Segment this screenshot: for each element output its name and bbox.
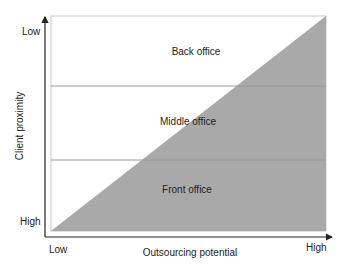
y-axis-top-label: Low bbox=[22, 26, 40, 38]
diagram-canvas bbox=[0, 0, 346, 266]
region-middle-office-label: Middle office bbox=[160, 116, 216, 128]
x-axis-high-label: High bbox=[306, 242, 327, 254]
y-axis-title: Client proximity bbox=[14, 92, 26, 160]
x-axis-low-label: Low bbox=[49, 244, 67, 256]
outsourcing-diagram: Low High Client proximity Low High Outso… bbox=[0, 0, 346, 266]
region-front-office-label: Front office bbox=[162, 184, 212, 196]
y-axis-bottom-label: High bbox=[20, 216, 41, 228]
region-back-office-label: Back office bbox=[172, 46, 221, 58]
x-axis-title: Outsourcing potential bbox=[143, 247, 238, 259]
